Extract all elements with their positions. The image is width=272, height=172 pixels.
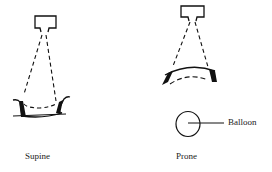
- supine-dashed-chord: [24, 103, 57, 108]
- supine-panel: [13, 16, 70, 117]
- prone-panel: [162, 6, 224, 137]
- positioning-diagram: [0, 0, 272, 172]
- prone-dashed-arc: [170, 77, 208, 84]
- supine-beam-left: [24, 35, 42, 94]
- prone-source-box: [181, 6, 204, 21]
- supine-support-right-end: [56, 100, 63, 114]
- balloon-label: Balloon: [228, 118, 257, 127]
- balloon-circle: [176, 112, 200, 137]
- prone-beam-left: [173, 22, 190, 66]
- supine-support-left-end: [19, 101, 26, 117]
- supine-caption: Supine: [25, 152, 50, 161]
- prone-caption: Prone: [176, 152, 197, 161]
- prone-beam-right: [195, 22, 208, 67]
- prone-support-surface: [165, 67, 215, 75]
- supine-source-box: [35, 16, 56, 32]
- prone-support-right-end: [209, 69, 217, 82]
- supine-beam-right: [46, 35, 56, 101]
